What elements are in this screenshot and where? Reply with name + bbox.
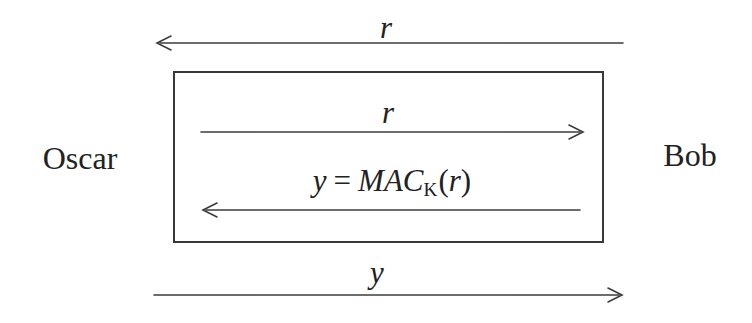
actor-oscar-label: Oscar (43, 142, 118, 174)
outer-challenge-label: r (380, 12, 392, 43)
inner-response-arrow (203, 203, 580, 217)
open-paren: ( (438, 163, 448, 198)
inner-challenge-label: r (382, 97, 394, 128)
response-var: y (313, 163, 327, 198)
mac-function: MAC (358, 163, 423, 198)
actor-bob-label: Bob (663, 139, 716, 171)
equals-sign: = (334, 163, 351, 198)
response-arg: r (449, 163, 461, 198)
mac-protocol-diagram: Oscar Bob r r y=MACK(r) y (0, 0, 752, 323)
outer-response-label: y (370, 257, 384, 288)
inner-response-label: y=MACK(r) (313, 165, 471, 199)
outer-response-arrow (154, 288, 622, 302)
key-subscript: K (424, 179, 438, 200)
close-paren: ) (461, 163, 471, 198)
